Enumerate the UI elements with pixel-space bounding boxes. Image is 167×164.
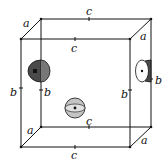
label-bottom-front-c: c — [71, 149, 77, 162]
label-back-left-b: b — [44, 86, 51, 99]
label-top-left-a: a — [23, 17, 30, 30]
label-front-right-b: b — [121, 88, 128, 101]
label-top-back-c: c — [86, 5, 92, 18]
label-bottom-right-a: a — [141, 134, 148, 147]
label-bottom-back-c: c — [86, 115, 92, 128]
label-top-right-a: a — [140, 30, 147, 43]
label-back-right-b: b — [155, 74, 162, 87]
left-face-half-sphere — [28, 60, 50, 82]
label-front-left-b: b — [10, 86, 17, 99]
cube-diagram: c c c c a a a a b b b b — [0, 0, 167, 164]
right-face-half-sphere — [136, 60, 152, 82]
label-top-front-c: c — [71, 42, 77, 55]
label-bottom-left-a: a — [27, 124, 34, 137]
body-center-sphere — [65, 98, 85, 118]
